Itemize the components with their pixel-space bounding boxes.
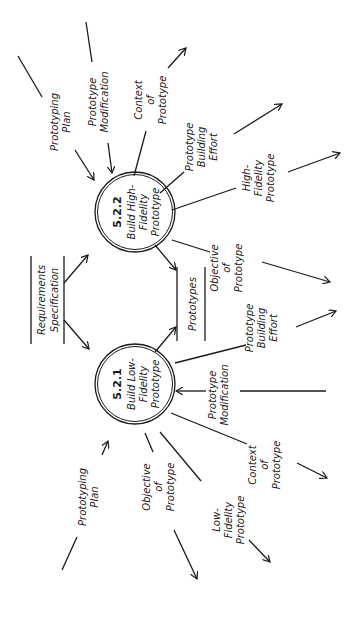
flow-line bbox=[145, 433, 153, 452]
flow-label: Prototype bbox=[271, 441, 282, 490]
flow-label: Prototype bbox=[244, 304, 255, 353]
flow-label: of bbox=[153, 481, 164, 492]
datastore-label: Requirements bbox=[36, 265, 47, 335]
process-label-line: Prototype bbox=[150, 188, 161, 237]
datastore-label: Specification bbox=[49, 268, 60, 332]
flow-label: of bbox=[145, 94, 156, 105]
flow-label: of bbox=[221, 262, 232, 273]
flow-arrow bbox=[108, 143, 112, 173]
flow-arrow bbox=[75, 150, 94, 180]
process-build-low-fidelity-prototype[interactable]: 5.2.1 Build Low- Fidelity Prototype bbox=[95, 344, 175, 424]
flow-label: Prototyping bbox=[77, 468, 88, 526]
flow-label: Context bbox=[247, 444, 258, 484]
flow-arrow bbox=[296, 311, 336, 327]
datastore-prototypes[interactable]: Prototypes bbox=[177, 267, 205, 341]
process-label-line: Fidelity bbox=[138, 365, 149, 403]
flow-label: Prototype bbox=[87, 78, 98, 127]
flow-arrow bbox=[262, 262, 330, 282]
flow-label: Fidelity bbox=[223, 501, 234, 539]
flow-label: Prototype bbox=[265, 154, 276, 203]
flow-arrow bbox=[249, 540, 270, 562]
flow-label: Building bbox=[196, 127, 207, 168]
process-label-line: Build High- bbox=[126, 184, 137, 239]
flow-line bbox=[86, 22, 92, 62]
flow-label: Prototype bbox=[184, 123, 195, 172]
flow-label: Prototype bbox=[157, 76, 168, 125]
flow-label: Prototyping bbox=[49, 93, 60, 151]
flow-label: Plan bbox=[89, 486, 100, 507]
flow-label: Prototype bbox=[207, 371, 218, 420]
process-label-line: Build Low- bbox=[126, 358, 137, 410]
dfd-diagram: 5.2.2 Build High- Fidelity Prototype 5.2… bbox=[0, 0, 358, 620]
process-label-line: Fidelity bbox=[138, 193, 149, 231]
flow-arrow bbox=[155, 245, 176, 270]
flow-label: Fidelity bbox=[253, 159, 264, 197]
process-build-high-fidelity-prototype[interactable]: 5.2.2 Build High- Fidelity Prototype bbox=[95, 172, 175, 252]
flow-arrow bbox=[297, 463, 327, 478]
datastore-requirements-specification[interactable]: Requirements Specification bbox=[31, 256, 64, 344]
flow-label: Objective bbox=[141, 463, 152, 510]
flow-arrow bbox=[168, 48, 186, 68]
flow-label: of bbox=[259, 459, 270, 470]
flow-arrow bbox=[288, 153, 340, 172]
flow-label: Context bbox=[133, 79, 144, 119]
flow-label: Prototype bbox=[235, 496, 246, 545]
flow-label: Effort bbox=[208, 132, 219, 161]
flow-label: Plan bbox=[61, 111, 72, 132]
flow-label: High- bbox=[241, 164, 252, 191]
flow-arrow bbox=[64, 320, 89, 349]
flow-line bbox=[134, 131, 146, 176]
flow-line bbox=[18, 56, 42, 97]
flow-line bbox=[160, 172, 184, 193]
flow-label: Objective bbox=[209, 244, 220, 291]
flow-label: Prototype bbox=[233, 244, 244, 293]
flow-arrow bbox=[174, 530, 197, 579]
flow-label: Modification bbox=[219, 364, 230, 425]
flow-line bbox=[175, 345, 246, 363]
flow-line bbox=[172, 188, 236, 210]
datastore-label: Prototypes bbox=[187, 277, 198, 331]
flow-arrow bbox=[64, 255, 88, 283]
flow-label: Modification bbox=[99, 71, 110, 132]
flow-arrow bbox=[102, 441, 108, 455]
flow-label: Prototype bbox=[165, 463, 176, 512]
flow-label: Building bbox=[256, 308, 267, 349]
flow-arrow bbox=[155, 327, 176, 352]
process-label-line: Prototype bbox=[150, 360, 161, 409]
flow-label: Effort bbox=[268, 313, 279, 342]
process-number: 5.2.1 bbox=[111, 368, 124, 399]
flow-arrow bbox=[234, 104, 282, 134]
flow-line bbox=[62, 537, 77, 570]
flow-label: Low- bbox=[211, 508, 222, 532]
process-number: 5.2.2 bbox=[111, 196, 124, 227]
flow-line bbox=[172, 240, 210, 252]
